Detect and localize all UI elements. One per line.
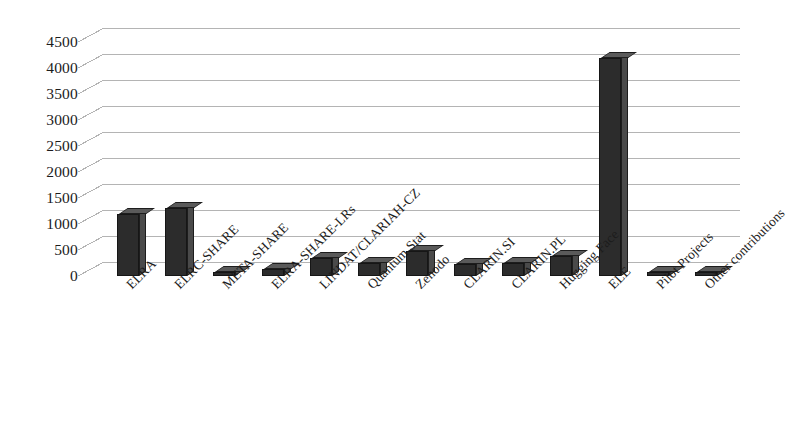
- x-axis: ELRAELRC-SHAREMETA-SHAREELRA-SHARE-LRsLI…: [78, 276, 740, 436]
- y-axis-tick-label: 2500: [46, 138, 78, 154]
- y-axis-tick-label: 4500: [46, 34, 78, 50]
- bar-side-face: [621, 53, 628, 276]
- y-axis-tick-label: 3500: [46, 86, 78, 102]
- y-axis-tick-label: 3000: [46, 112, 78, 128]
- bar-column[interactable]: [117, 206, 139, 276]
- y-axis-tick-label: 1000: [46, 216, 78, 232]
- bar-front-face: [165, 208, 187, 276]
- bar-column[interactable]: [165, 200, 187, 276]
- y-axis-tick-label: 1500: [46, 190, 78, 206]
- y-axis-tick-label: 0: [70, 268, 78, 284]
- y-axis-tick-label: 500: [54, 242, 78, 258]
- bar-front-face: [117, 214, 139, 276]
- y-axis-tick-label: 4000: [46, 60, 78, 76]
- y-axis-tick-label: 2000: [46, 164, 78, 180]
- y-axis: 450040003500300025002000150010005000: [8, 0, 78, 442]
